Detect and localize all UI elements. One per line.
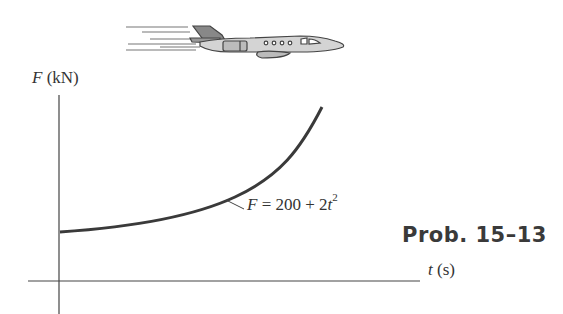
y-axis-symbol: F <box>32 68 42 87</box>
equation-rhs: = 200 + 2 <box>262 195 328 214</box>
curve-equation-label: F = 200 + 2t2 <box>247 193 338 215</box>
x-axis-label: t (s) <box>428 260 455 280</box>
jet-airplane-icon <box>126 26 344 58</box>
y-axis-label: F (kN) <box>32 68 79 88</box>
curve-leader-line <box>226 200 244 209</box>
diagram-canvas <box>0 0 563 314</box>
equation-lhs: F <box>247 195 257 214</box>
y-axis-unit: (kN) <box>47 68 79 87</box>
equation-exponent: 2 <box>332 191 338 203</box>
problem-label: Prob. 15–13 <box>402 223 547 247</box>
x-axis-unit: (s) <box>437 260 455 279</box>
x-axis-symbol: t <box>428 260 433 279</box>
